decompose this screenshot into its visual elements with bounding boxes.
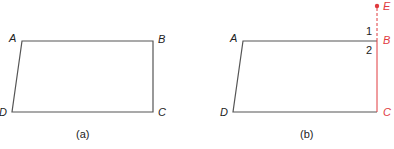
quadrilateral-abcd-gray xyxy=(233,41,377,112)
figure-a: A B C D (a) xyxy=(0,32,166,140)
angle-label-1: 1 xyxy=(366,25,372,37)
vertex-label-d: D xyxy=(220,106,228,118)
vertex-label-d: D xyxy=(0,106,7,118)
caption-b: (b) xyxy=(300,128,313,140)
quadrilateral-abcd xyxy=(12,41,153,112)
point-e-dot xyxy=(375,4,379,8)
caption-a: (a) xyxy=(76,128,89,140)
diagram-canvas: A B C D (a) E B C A D 1 2 (b) xyxy=(0,0,394,149)
figure-b: E B C A D 1 2 (b) xyxy=(220,0,391,140)
angle-label-2: 2 xyxy=(366,44,372,56)
vertex-label-b: B xyxy=(383,34,390,46)
vertex-label-a: A xyxy=(8,32,16,44)
vertex-label-c: C xyxy=(158,106,166,118)
vertex-label-e: E xyxy=(383,0,391,12)
vertex-label-c: C xyxy=(383,106,391,118)
vertex-label-b: B xyxy=(158,33,165,45)
vertex-label-a: A xyxy=(229,32,237,44)
